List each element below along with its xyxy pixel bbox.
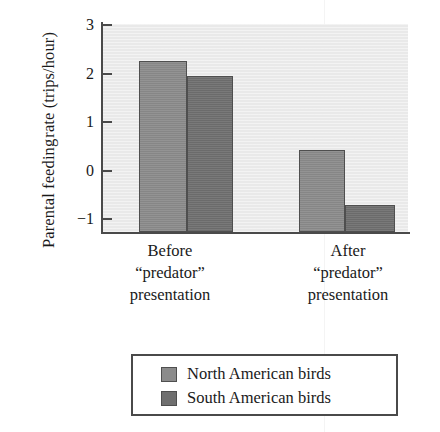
bar-south-american-before bbox=[187, 76, 233, 232]
x-category-label-after: After “predator” presentation bbox=[288, 240, 408, 306]
y-tick-mark-1 bbox=[103, 121, 112, 123]
plot-area bbox=[103, 24, 408, 232]
y-axis-title-line-2: rate (trips/hour) bbox=[39, 32, 58, 138]
y-axis-tick-labels: 3 2 1 0 −1 bbox=[62, 0, 94, 432]
x-category-label-before: Before “predator” presentation bbox=[110, 240, 230, 306]
y-axis-title-line-1: Parental feeding bbox=[39, 139, 58, 248]
legend-label-north-american: North American birds bbox=[187, 365, 331, 383]
y-tick-label-2: 2 bbox=[68, 66, 94, 82]
x-category-label-before-line-3: presentation bbox=[110, 284, 230, 306]
legend-label-south-american: South American birds bbox=[187, 389, 331, 407]
legend-item-south-american: South American birds bbox=[161, 386, 396, 410]
y-tick-label-0: 0 bbox=[68, 163, 94, 179]
y-tick-mark-3 bbox=[103, 24, 112, 26]
bar-texture bbox=[188, 77, 232, 231]
y-tick-mark-0 bbox=[103, 170, 112, 172]
bar-texture bbox=[140, 62, 186, 231]
y-tick-label-3: 3 bbox=[68, 17, 94, 33]
legend-swatch-icon-south-american bbox=[161, 391, 177, 406]
bar-texture bbox=[346, 206, 394, 231]
bar-north-american-after bbox=[299, 150, 345, 232]
bar-texture bbox=[300, 151, 344, 231]
y-tick-label-neg1: −1 bbox=[68, 211, 94, 227]
y-tick-label-1: 1 bbox=[68, 114, 94, 130]
y-axis-line bbox=[101, 22, 103, 234]
x-category-label-after-line-1: After bbox=[288, 240, 408, 262]
x-category-label-before-line-1: Before bbox=[110, 240, 230, 262]
legend-item-north-american: North American birds bbox=[161, 362, 396, 386]
bar-chart-figure: Parental feeding rate (trips/hour) 3 2 1… bbox=[0, 0, 440, 432]
y-tick-mark-2 bbox=[103, 73, 112, 75]
bar-north-american-before bbox=[139, 61, 187, 232]
x-category-label-after-line-3: presentation bbox=[288, 284, 408, 306]
x-category-label-after-line-2: “predator” bbox=[288, 262, 408, 284]
y-tick-mark-neg1 bbox=[103, 218, 112, 220]
x-axis-line bbox=[101, 232, 410, 234]
legend-swatch-icon-north-american bbox=[161, 367, 177, 382]
x-category-label-before-line-2: “predator” bbox=[110, 262, 230, 284]
bar-south-american-after bbox=[345, 205, 395, 232]
legend: North American birds South American bird… bbox=[131, 354, 398, 416]
